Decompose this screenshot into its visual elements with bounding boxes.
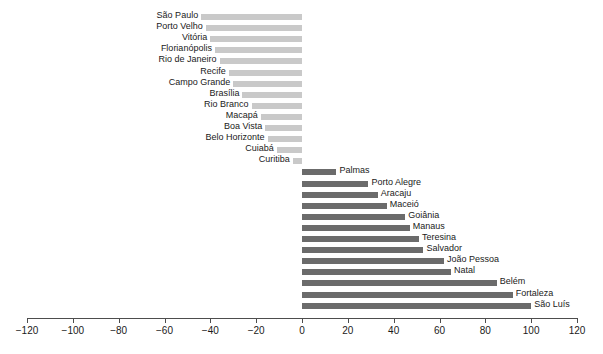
x-tick-mark	[119, 318, 120, 323]
x-tick-mark	[348, 318, 349, 323]
bar-row: Recife	[0, 68, 603, 79]
bar-positive	[302, 292, 513, 298]
bar-category-label: João Pessoa	[447, 254, 499, 265]
bar-positive	[302, 303, 531, 309]
bar-row: São Paulo	[0, 12, 603, 23]
bar-positive	[302, 169, 336, 175]
x-tick-label: 20	[342, 325, 353, 336]
bar-positive	[302, 181, 368, 187]
bar-row: Manaus	[0, 223, 603, 234]
bar-row: Belo Horizonte	[0, 134, 603, 145]
bar-negative	[277, 147, 302, 153]
bar-row: Campo Grande	[0, 79, 603, 90]
bar-category-label: Goiânia	[408, 210, 439, 221]
bar-row: Rio Branco	[0, 101, 603, 112]
bar-row: Goiânia	[0, 212, 603, 223]
bar-category-label: Teresina	[422, 232, 456, 243]
bar-negative	[293, 158, 302, 164]
bar-positive	[302, 214, 405, 220]
bar-row: Porto Velho	[0, 23, 603, 34]
bar-row: Boa Vista	[0, 123, 603, 134]
x-tick-label: 100	[523, 325, 540, 336]
bar-negative	[261, 114, 302, 120]
bar-row: Fortaleza	[0, 290, 603, 301]
bar-negative	[233, 81, 302, 87]
x-tick-mark	[302, 318, 303, 323]
x-tick-mark	[531, 318, 532, 323]
x-tick-mark	[256, 318, 257, 323]
x-tick-label: −20	[248, 325, 265, 336]
bar-category-label: Rio de Janeiro	[158, 54, 216, 65]
bar-row: Palmas	[0, 167, 603, 178]
bar-row: Macapá	[0, 112, 603, 123]
bar-row: Curitiba	[0, 156, 603, 167]
bar-category-label: Maceió	[390, 199, 419, 210]
bar-row: Brasília	[0, 90, 603, 101]
x-tick-label: −120	[16, 325, 39, 336]
x-tick-mark	[210, 318, 211, 323]
bar-category-label: Curitiba	[259, 154, 290, 165]
bar-category-label: Salvador	[426, 243, 462, 254]
bar-negative	[229, 70, 302, 76]
bar-row: Rio de Janeiro	[0, 56, 603, 67]
bar-category-label: Boa Vista	[224, 121, 262, 132]
x-tick-label: 80	[480, 325, 491, 336]
bar-category-label: Brasília	[209, 88, 239, 99]
bar-category-label: São Paulo	[157, 10, 199, 21]
bar-negative	[210, 36, 302, 42]
bar-positive	[302, 247, 423, 253]
plot-area: São PauloPorto VelhoVitóriaFlorianópolis…	[0, 0, 603, 318]
bar-positive	[302, 236, 419, 242]
bar-category-label: Vitória	[182, 32, 207, 43]
x-tick-mark	[394, 318, 395, 323]
x-tick-mark	[577, 318, 578, 323]
bar-positive	[302, 203, 387, 209]
bar-category-label: São Luís	[534, 299, 570, 310]
bar-row: Maceió	[0, 201, 603, 212]
bar-category-label: Porto Alegre	[371, 177, 421, 188]
bar-row: Porto Alegre	[0, 179, 603, 190]
bar-chart: São PauloPorto VelhoVitóriaFlorianópolis…	[0, 0, 603, 354]
bar-category-label: Macapá	[226, 110, 258, 121]
bar-negative	[252, 103, 302, 109]
bar-row: Belém	[0, 278, 603, 289]
bar-negative	[220, 58, 303, 64]
bar-positive	[302, 258, 444, 264]
bar-category-label: Belo Horizonte	[206, 132, 265, 143]
bar-row: Aracaju	[0, 190, 603, 201]
bar-category-label: Florianópolis	[161, 43, 212, 54]
x-axis: −120−100−80−60−40−20020406080100120	[0, 318, 603, 354]
bar-row: Cuiabá	[0, 145, 603, 156]
bar-category-label: Recife	[200, 66, 226, 77]
bar-positive	[302, 280, 497, 286]
bar-category-label: Campo Grande	[169, 77, 231, 88]
bar-negative	[206, 25, 302, 31]
bar-negative	[242, 92, 302, 98]
x-tick-label: −100	[62, 325, 85, 336]
x-tick-label: 40	[388, 325, 399, 336]
bar-positive	[302, 192, 378, 198]
bar-positive	[302, 225, 410, 231]
x-tick-mark	[73, 318, 74, 323]
bar-category-label: Rio Branco	[204, 99, 249, 110]
bar-negative	[215, 47, 302, 53]
bar-category-label: Porto Velho	[156, 21, 203, 32]
x-tick-label: 120	[569, 325, 586, 336]
x-tick-label: −60	[156, 325, 173, 336]
x-tick-mark	[165, 318, 166, 323]
x-tick-mark	[440, 318, 441, 323]
x-tick-label: 60	[434, 325, 445, 336]
x-tick-label: −40	[202, 325, 219, 336]
bar-row: João Pessoa	[0, 256, 603, 267]
bar-negative	[201, 14, 302, 20]
bar-category-label: Cuiabá	[245, 143, 274, 154]
x-tick-label: −80	[110, 325, 127, 336]
bar-negative	[265, 125, 302, 131]
bar-row: Vitória	[0, 34, 603, 45]
bar-category-label: Manaus	[413, 221, 445, 232]
x-tick-label: 0	[299, 325, 305, 336]
bar-category-label: Fortaleza	[516, 288, 554, 299]
bar-row: São Luís	[0, 301, 603, 312]
bar-negative	[268, 136, 302, 142]
bar-category-label: Natal	[454, 265, 475, 276]
